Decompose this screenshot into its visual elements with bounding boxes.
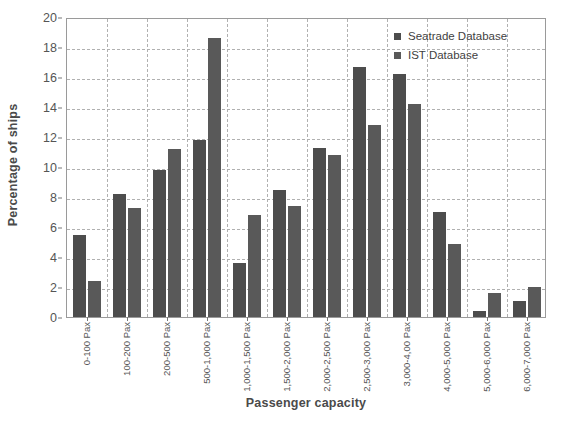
x-tick-mark — [407, 317, 408, 321]
y-tick-label: 10 — [43, 161, 57, 175]
legend-item-label: Seatrade Database — [408, 30, 507, 42]
legend-item[interactable]: IST Database — [394, 49, 507, 61]
x-tick-mark — [527, 317, 528, 321]
bar — [528, 287, 541, 317]
legend-swatch-icon — [394, 33, 401, 40]
x-tick-mark — [287, 317, 288, 321]
y-tick-label: 14 — [43, 101, 57, 115]
y-axis-title: Percentage of ships — [0, 0, 26, 330]
bar-group — [147, 19, 187, 317]
y-tick-mark — [58, 138, 62, 139]
y-tick-mark — [58, 258, 62, 259]
legend-swatch-icon — [394, 52, 401, 59]
bar — [513, 301, 526, 318]
bar — [488, 293, 501, 317]
y-tick-mark — [58, 108, 62, 109]
bar-group — [107, 19, 147, 317]
x-axis-title: Passenger capacity — [66, 396, 546, 410]
x-tick-mark — [87, 317, 88, 321]
y-tick-mark — [58, 318, 62, 319]
y-tick-label: 20 — [43, 11, 57, 25]
y-tick-label: 6 — [50, 221, 57, 235]
x-tick-mark — [487, 317, 488, 321]
y-tick-label: 0 — [50, 311, 57, 325]
bar-group — [67, 19, 107, 317]
bar — [113, 194, 126, 317]
legend: Seatrade DatabaseIST Database — [388, 26, 513, 72]
x-tick-mark — [447, 317, 448, 321]
bar-group — [307, 19, 347, 317]
bar — [153, 170, 166, 317]
bar — [328, 155, 341, 317]
bar-group — [187, 19, 227, 317]
legend-item[interactable]: Seatrade Database — [394, 30, 507, 42]
y-tick-mark — [58, 228, 62, 229]
bar — [433, 212, 446, 317]
y-tick-label: 2 — [50, 281, 57, 295]
bar — [248, 215, 261, 317]
bar-group — [227, 19, 267, 317]
x-axis-tick-labels: 0-100 Pax100-200 Pax200-500 Pax500-1,000… — [66, 322, 546, 392]
x-tick-mark — [247, 317, 248, 321]
x-tick-mark — [167, 317, 168, 321]
bar-chart: Percentage of ships 02468101214161820 0-… — [0, 0, 566, 429]
bar — [408, 104, 421, 317]
bar — [73, 235, 86, 318]
y-tick-mark — [58, 198, 62, 199]
bar — [393, 74, 406, 317]
bar — [288, 206, 301, 317]
bar — [208, 38, 221, 317]
x-tick-mark — [207, 317, 208, 321]
x-tick-mark — [367, 317, 368, 321]
x-tick-mark — [327, 317, 328, 321]
bar — [448, 244, 461, 318]
bar-group — [347, 19, 387, 317]
y-axis-ticks: 02468101214161820 — [26, 0, 62, 330]
x-tick-mark — [127, 317, 128, 321]
bar — [88, 281, 101, 317]
bar — [473, 311, 486, 317]
bar — [128, 208, 141, 318]
bar-group — [267, 19, 307, 317]
y-tick-label: 16 — [43, 71, 57, 85]
bar — [168, 149, 181, 317]
y-tick-label: 8 — [50, 191, 57, 205]
y-tick-label: 12 — [43, 131, 57, 145]
y-axis-title-text: Percentage of ships — [6, 104, 20, 227]
bar — [193, 140, 206, 317]
y-tick-mark — [58, 168, 62, 169]
y-tick-mark — [58, 78, 62, 79]
bar — [313, 148, 326, 318]
y-tick-label: 4 — [50, 251, 57, 265]
bar — [353, 67, 366, 318]
y-tick-mark — [58, 48, 62, 49]
bar — [368, 125, 381, 317]
y-tick-mark — [58, 288, 62, 289]
legend-item-label: IST Database — [408, 49, 478, 61]
bar — [273, 190, 286, 318]
y-tick-mark — [58, 18, 62, 19]
bar — [233, 263, 246, 317]
y-tick-label: 18 — [43, 41, 57, 55]
